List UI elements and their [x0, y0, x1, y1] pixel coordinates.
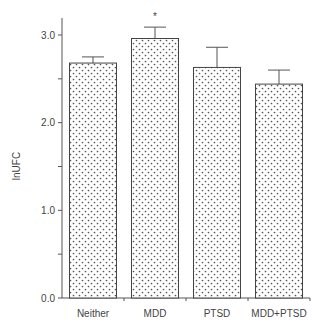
- y-axis: 0.01.02.03.0: [41, 18, 62, 304]
- significance-marker: *: [153, 11, 157, 22]
- bar: [132, 39, 179, 298]
- bar: [256, 84, 303, 298]
- bar-chart: 0.01.02.03.0 NeitherMDD*PTSDMDD+PTSD lnU…: [0, 0, 323, 329]
- bars: NeitherMDD*PTSDMDD+PTSD: [70, 11, 307, 319]
- bar: [194, 67, 241, 298]
- x-category-label: PTSD: [204, 308, 231, 319]
- y-axis-label: lnUFC: [11, 152, 22, 180]
- bar-group-mdd: MDD*: [132, 11, 179, 319]
- bar-group-neither: Neither: [70, 57, 117, 319]
- x-category-label: Neither: [77, 308, 110, 319]
- y-tick-label: 3.0: [41, 30, 55, 41]
- bar-group-ptsd: PTSD: [194, 47, 241, 319]
- y-tick-label: 0.0: [41, 293, 55, 304]
- y-tick-label: 1.0: [41, 205, 55, 216]
- bar-group-mdd-ptsd: MDD+PTSD: [251, 70, 306, 319]
- bar: [70, 63, 117, 298]
- x-category-label: MDD+PTSD: [251, 308, 306, 319]
- y-tick-label: 2.0: [41, 117, 55, 128]
- x-category-label: MDD: [144, 308, 167, 319]
